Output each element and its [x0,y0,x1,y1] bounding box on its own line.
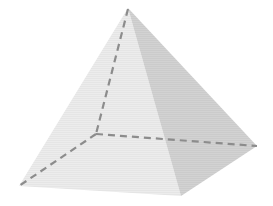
pyramid-svg [0,0,273,206]
pyramid-diagram [0,0,273,206]
